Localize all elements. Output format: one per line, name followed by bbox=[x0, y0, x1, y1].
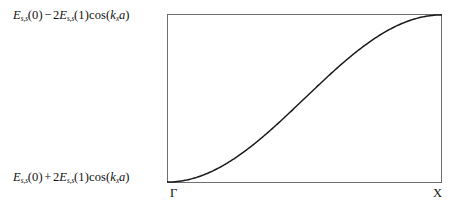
dispersion-curve-svg bbox=[167, 14, 442, 183]
energy-label-bottom-subscript: s,s bbox=[21, 177, 28, 185]
energy-label-bottom-base2: E bbox=[59, 170, 67, 184]
energy-label-top-arg2: (1) bbox=[74, 8, 89, 22]
energy-label-bottom-close-paren: ) bbox=[125, 170, 129, 184]
energy-label-top-close-paren: ) bbox=[125, 8, 129, 22]
energy-label-bottom-arg2: (1) bbox=[74, 170, 89, 184]
band-dispersion-curve bbox=[167, 15, 442, 182]
energy-label-bottom-arg: (0) bbox=[28, 170, 43, 184]
energy-label-top-base2: E bbox=[59, 8, 67, 22]
energy-label-top-base: E bbox=[13, 8, 21, 22]
energy-label-top: Es,s(0)−2Es,s(1)cos(kxa) bbox=[13, 9, 130, 23]
energy-label-top-operator: − bbox=[43, 8, 53, 22]
energy-label-top-cos: cos( bbox=[89, 8, 110, 22]
kpoint-label-x: X bbox=[433, 187, 442, 200]
kpoint-label-gamma: Γ bbox=[170, 187, 177, 200]
energy-label-bottom: Es,s(0)+2Es,s(1)cos(kxa) bbox=[13, 171, 130, 185]
energy-label-top-arg: (0) bbox=[28, 8, 43, 22]
energy-label-bottom-operator: + bbox=[43, 170, 53, 184]
energy-label-bottom-cos: cos( bbox=[89, 170, 110, 184]
band-structure-figure: Es,s(0)−2Es,s(1)cos(kxa) Es,s(0)+2Es,s(1… bbox=[0, 0, 458, 210]
energy-label-top-subscript: s,s bbox=[21, 15, 28, 23]
energy-label-bottom-base: E bbox=[13, 170, 21, 184]
